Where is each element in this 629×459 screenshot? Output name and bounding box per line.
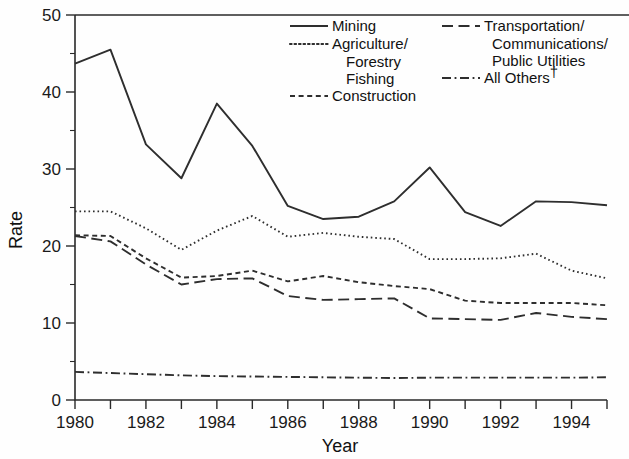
legend-label: Mining (332, 17, 376, 34)
x-tick-label: 1984 (198, 413, 236, 432)
y-tick-label: 30 (42, 160, 61, 179)
legend-column-right: Transportation/Communications/Public Uti… (440, 17, 624, 105)
legend-label-continuation: Public Utilities (440, 52, 624, 69)
y-tick-label: 20 (42, 237, 61, 256)
legend-line-sample-long-dash (440, 17, 484, 34)
legend-item-allothers[interactable]: All Others† (440, 69, 624, 86)
legend-swatch (288, 35, 332, 52)
y-axis-title: Rate (6, 211, 26, 249)
legend-label-continuation: Communications/ (440, 35, 624, 52)
series-line-1 (75, 211, 607, 278)
legend-item-construction[interactable]: Construction (288, 87, 440, 104)
y-tick-label: 10 (42, 314, 61, 333)
legend-label: Agriculture/ (332, 35, 408, 52)
series-line-4 (75, 372, 607, 378)
legend-label-continuation: Forestry (288, 53, 440, 70)
legend-label: Transportation/ (484, 17, 584, 34)
legend-swatch (288, 17, 332, 34)
legend-line-sample-short-dash (288, 87, 332, 104)
x-tick-label: 1990 (411, 413, 449, 432)
y-tick-label: 0 (52, 391, 61, 410)
x-tick-label: 1980 (56, 413, 94, 432)
legend-item-transportation[interactable]: Transportation/ (440, 17, 624, 34)
dagger-footnote-marker: † (550, 63, 558, 80)
legend-swatch (288, 87, 332, 104)
legend-label: Construction (332, 87, 416, 104)
x-tick-label: 1982 (127, 413, 165, 432)
series-line-3 (75, 236, 607, 320)
legend-item-agriculture[interactable]: Agriculture/ (288, 35, 440, 52)
legend-line-sample-solid (288, 17, 332, 34)
legend-label-continuation: Fishing (288, 70, 440, 87)
x-tick-label: 1992 (482, 413, 520, 432)
x-tick-label: 1994 (553, 413, 591, 432)
legend-swatch (440, 17, 484, 34)
legend-item-mining[interactable]: Mining (288, 17, 440, 34)
legend-swatch (440, 69, 484, 86)
x-axis-title: Year (322, 436, 358, 456)
legend-line-sample-dash-dot (440, 69, 484, 86)
chart-legend: MiningAgriculture/ForestryFishingConstru… (288, 17, 624, 105)
y-tick-label: 40 (42, 83, 61, 102)
legend-column-left: MiningAgriculture/ForestryFishingConstru… (288, 17, 440, 105)
legend-label: All Others† (484, 69, 558, 86)
legend-line-sample-dotted (288, 35, 332, 52)
y-tick-label: 50 (42, 6, 61, 25)
x-tick-label: 1988 (340, 413, 378, 432)
chart-figure: 0102030405019801982198419861988199019921… (0, 0, 629, 459)
x-tick-label: 1986 (269, 413, 307, 432)
